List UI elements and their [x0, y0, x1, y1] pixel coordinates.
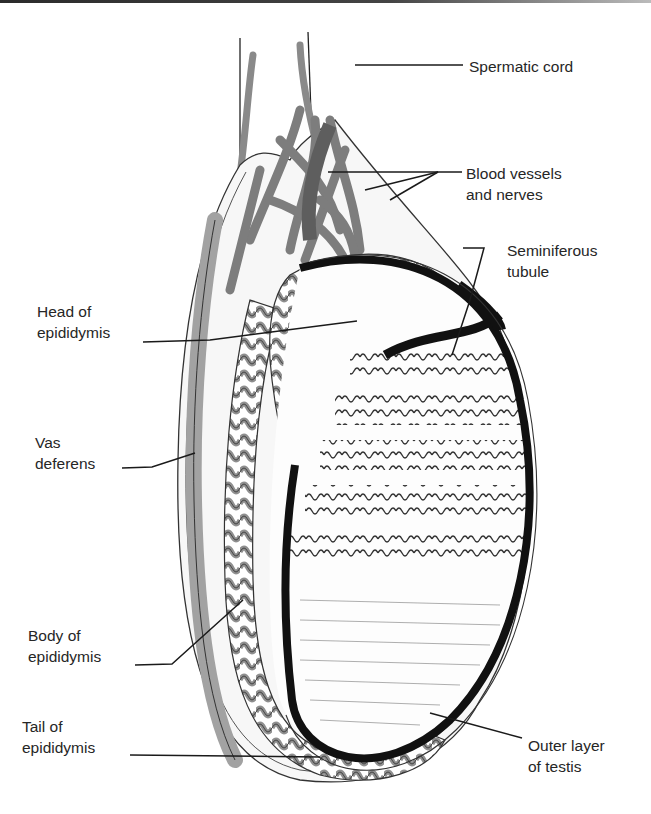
label-body-of-epididymis: Body of epididymis: [28, 625, 101, 667]
label-tail-of-epididymis: Tail of epididymis: [22, 716, 95, 758]
label-seminiferous-tubule: Seminiferous tubule: [507, 240, 597, 282]
testis-illustration: [0, 0, 651, 814]
label-blood-vessels-and-nerves: Blood vessels and nerves: [466, 163, 562, 205]
label-outer-layer-of-testis: Outer layer of testis: [528, 735, 605, 777]
label-spermatic-cord: Spermatic cord: [469, 56, 573, 77]
label-vas-deferens: Vas deferens: [35, 432, 95, 474]
testis-body: [270, 259, 550, 758]
label-head-of-epididymis: Head of epididymis: [37, 301, 110, 343]
